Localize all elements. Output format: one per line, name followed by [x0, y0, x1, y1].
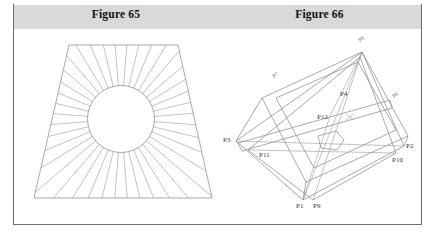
figure-65-ray: [115, 152, 119, 198]
figure-66-label-p9: P9: [313, 202, 321, 210]
figure-65-ray: [51, 122, 88, 125]
figure-66-label-p4: P4: [340, 90, 348, 98]
figure-65-ray: [53, 114, 88, 117]
figure-65-ray: [124, 152, 128, 198]
figure-65-trapezoid-outline: [34, 45, 212, 198]
figure-66-wall-edge: [236, 98, 262, 141]
figure-66-wall-edge: [303, 182, 306, 200]
figure-66-base-outline: [236, 52, 404, 200]
figure-65-ray: [134, 150, 154, 198]
figure-65-ray: [45, 132, 90, 151]
figure-65-rays: [35, 45, 211, 198]
figure-66-geometry: [236, 52, 408, 200]
figure-65-ray: [67, 55, 100, 93]
figure-66-label-p1: P1: [296, 202, 304, 210]
figure-66-construction-line: [330, 52, 362, 116]
figure-65-ray: [61, 82, 93, 102]
figure-66-edge-label-p7: P7: [271, 70, 279, 78]
figure-65-ray: [143, 51, 180, 94]
figure-65-ray: [154, 122, 196, 125]
figure-65-inscribed-circle: [88, 86, 155, 153]
figure-66-caption: Figure 66: [218, 8, 421, 20]
figure-65-ray: [35, 141, 95, 193]
figure-66-label-p2: P2: [406, 142, 414, 150]
figure-65-ray: [56, 103, 89, 111]
frame-border-bottom: [13, 224, 422, 225]
figure-65-ray: [58, 93, 90, 106]
figure-65-ray: [154, 113, 193, 116]
figure-65-ray: [90, 45, 108, 88]
figure-66-edge-label-p8: P8: [357, 34, 365, 42]
figure-65-ray: [153, 127, 198, 138]
figure-65-drawing: [14, 30, 218, 222]
figure-66-label-p11: P11: [259, 151, 270, 159]
figure-65-ray: [102, 151, 113, 198]
figure-page: Figure 65 Figure 66 P3P11P1P9P10P2P4P12P…: [0, 0, 440, 232]
figure-66-edge-label-p6: P6: [391, 90, 399, 98]
figure-66-construction-line: [313, 52, 362, 200]
figure-66-label-p3: P3: [223, 136, 231, 144]
figure-65-ray: [134, 45, 152, 88]
figure-65-ray: [149, 136, 206, 171]
figure-65-ray: [129, 151, 140, 198]
figure-66-drawing: P3P11P1P9P10P2P4P12P7P8P6: [218, 30, 421, 222]
frame-border-right: [421, 4, 422, 225]
figure-65-ray: [88, 150, 108, 198]
figure-66-label-p12: P12: [317, 113, 328, 121]
figure-66-label-p10: P10: [392, 156, 403, 164]
figure-65-ray: [124, 45, 127, 86]
figure-66-construction-line: [303, 52, 362, 200]
figure-65-caption: Figure 65: [14, 8, 218, 20]
figure-65-ray: [41, 136, 93, 168]
figure-65-ray: [146, 66, 182, 97]
figure-65-ray: [115, 45, 118, 86]
